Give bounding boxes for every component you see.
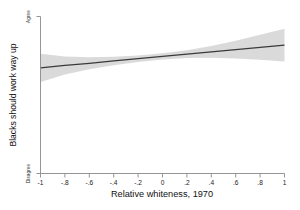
x-tick-label: .8 xyxy=(257,179,263,186)
x-tick-label: -.2 xyxy=(134,179,142,186)
y-tick-label-disagree: Disagree xyxy=(26,164,31,184)
y-tick-label-agree: Agree xyxy=(26,10,31,23)
chart-figure: -1-.8-.6-.4-.20.2.4.6.81 Agree Disagree … xyxy=(0,0,300,210)
x-tick-label: .4 xyxy=(209,179,215,186)
x-tick-label: -.4 xyxy=(110,179,118,186)
x-tick-label: .6 xyxy=(233,179,239,186)
x-axis-title: Relative whiteness, 1970 xyxy=(111,189,213,199)
y-axis-title: Blacks should work way up xyxy=(8,43,18,146)
chart-svg: -1-.8-.6-.4-.20.2.4.6.81 Agree Disagree … xyxy=(0,0,300,210)
x-tick-label: 0 xyxy=(161,179,165,186)
chart-background xyxy=(0,0,300,210)
x-tick-label: -1 xyxy=(38,179,44,186)
x-tick-label: -.8 xyxy=(61,179,69,186)
x-tick-label: 1 xyxy=(283,179,287,186)
x-tick-label: .2 xyxy=(184,179,190,186)
x-tick-label: -.6 xyxy=(85,179,93,186)
